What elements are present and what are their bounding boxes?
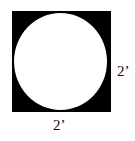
inscribed-circle bbox=[14, 13, 107, 110]
square-shape bbox=[12, 11, 111, 112]
side-length-label-right: 2’ bbox=[117, 64, 130, 79]
side-length-label-bottom: 2’ bbox=[53, 118, 66, 133]
